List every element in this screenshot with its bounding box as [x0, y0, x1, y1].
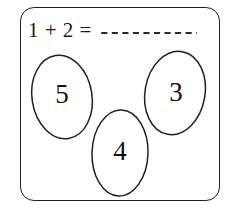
answer-blank[interactable] [100, 22, 198, 38]
egg-left-number: 5 [47, 81, 77, 108]
equation-row: 1 + 2 = [28, 15, 198, 45]
egg-right-number: 3 [161, 79, 191, 106]
answer-blank-dashes [100, 22, 198, 38]
egg-bottom-number: 4 [105, 138, 135, 165]
equation-expression: 1 + 2 = [28, 20, 92, 41]
worksheet-canvas: 1 + 2 = 5 3 4 [0, 0, 233, 215]
